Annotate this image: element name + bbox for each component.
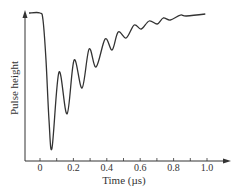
y-axis bbox=[23, 10, 28, 161]
x-axis-label: Time (µs) bbox=[102, 174, 146, 187]
x-axis: 00.20.40.60.81.0 bbox=[25, 158, 231, 173]
x-tick-label: 0.4 bbox=[101, 162, 114, 173]
y-axis-label: Pulse height bbox=[8, 61, 20, 115]
pulse-height-curve bbox=[29, 12, 205, 149]
x-tick-label: 0.8 bbox=[167, 162, 180, 173]
x-tick-label: 0 bbox=[38, 162, 43, 173]
y-axis-arrow-icon bbox=[23, 10, 28, 18]
x-tick-label: 0.6 bbox=[134, 162, 147, 173]
x-tick-label: 0.2 bbox=[67, 162, 80, 173]
x-tick-label: 1.0 bbox=[201, 162, 214, 173]
x-axis-arrow-icon bbox=[223, 159, 231, 164]
x-axis-tick-labels: 00.20.40.60.81.0 bbox=[38, 162, 214, 173]
pulse-height-chart: 00.20.40.60.81.0 Time (µs) Pulse height bbox=[0, 0, 236, 196]
